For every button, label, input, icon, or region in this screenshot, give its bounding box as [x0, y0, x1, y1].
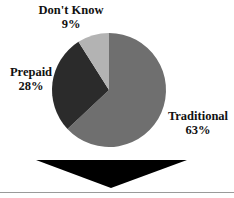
pie-slices: [52, 33, 166, 147]
pie-chart: [0, 0, 234, 198]
label-traditional: Traditional 63%: [164, 109, 232, 137]
slice-label: Traditional: [164, 109, 232, 123]
label-dont-know: Don't Know 9%: [38, 3, 104, 31]
slice-pct: 9%: [38, 17, 104, 31]
down-arrow-icon: [36, 160, 187, 188]
slice-pct: 63%: [164, 123, 232, 137]
slice-pct: 28%: [8, 79, 54, 93]
label-prepaid: Prepaid 28%: [8, 65, 54, 93]
slice-label: Don't Know: [38, 3, 104, 17]
slice-label: Prepaid: [8, 65, 54, 79]
